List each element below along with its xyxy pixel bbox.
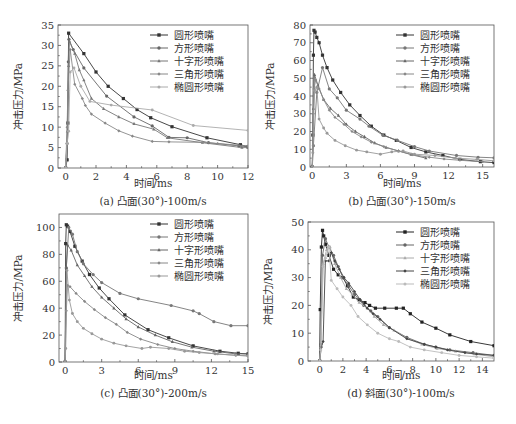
y-tick-label: 100 [36, 222, 55, 233]
legend-label: 方形喷嘴 [420, 42, 460, 54]
y-tick-label: 40 [42, 303, 55, 314]
y-axis-label: 冲击压力/MPa [262, 258, 274, 325]
x-tick-label: 12 [242, 171, 255, 182]
legend-label: 十字形喷嘴 [420, 55, 470, 67]
y-axis-label: 冲击压力/MPa [264, 62, 276, 129]
y-tick-label: 50 [291, 217, 304, 228]
legend-label: 三角形喷嘴 [420, 69, 470, 80]
legend-label: 圆形喷嘴 [420, 227, 460, 238]
x-tick-label: 8 [184, 171, 190, 182]
x-tick-label: 0 [62, 171, 68, 182]
y-tick-label: 10 [291, 328, 304, 339]
y-axis-label: 冲击压力/MPa [12, 254, 24, 321]
legend-label: 三角形喷嘴 [174, 258, 224, 269]
y-tick-label: 40 [291, 244, 304, 255]
plot-frame [310, 25, 494, 167]
y-tick-label: 0 [48, 163, 54, 174]
plot-frame [59, 214, 248, 362]
legend-label: 圆形喷嘴 [174, 30, 214, 41]
series-1 [64, 32, 250, 170]
x-axis-label: 时间/ms [134, 369, 173, 381]
legend-label: 方形喷嘴 [174, 42, 214, 54]
x-tick-label: 0 [309, 170, 315, 181]
x-axis-label: 时间/ms [134, 177, 173, 189]
legend-label: 椭圆形喷嘴 [174, 270, 224, 282]
series-1 [318, 229, 496, 363]
x-tick-label: 12 [442, 170, 455, 181]
x-tick-label: 10 [430, 364, 443, 375]
x-tick-label: 4 [363, 364, 369, 375]
chart-caption: (c) 凸面(30°)-200m/s [100, 387, 207, 399]
x-tick-label: 10 [211, 171, 224, 182]
y-tick-label: 30 [41, 40, 54, 51]
legend: 圆形喷嘴方形喷嘴十字形喷嘴三角形喷嘴椭圆形喷嘴 [396, 30, 470, 93]
x-tick-label: 0 [62, 365, 68, 376]
x-tick-label: 3 [98, 365, 104, 376]
legend-label: 圆形喷嘴 [420, 30, 460, 41]
chart-caption: (a) 凸面(30°)-100m/s [99, 195, 206, 207]
chart-d: 0246810121401020304050时间/ms冲击压力/MPa(d) 斜… [262, 217, 496, 400]
chart-a: 02468101205101520253035时间/ms冲击压力/MPa(a) … [12, 20, 254, 208]
legend-label: 椭圆形喷嘴 [420, 278, 470, 290]
y-tick-label: 60 [42, 276, 55, 287]
y-tick-label: 30 [293, 108, 306, 119]
x-axis-label: 时间/ms [383, 177, 422, 189]
y-tick-label: 0 [49, 357, 55, 368]
figure: 02468101205101520253035时间/ms冲击压力/MPa(a) … [0, 0, 516, 424]
x-axis-label: 时间/ms [382, 369, 421, 381]
chart-b: 0369121501020304050607080时间/ms冲击压力/MPa(b… [264, 20, 496, 208]
x-tick-label: 2 [340, 364, 346, 375]
x-tick-label: 14 [476, 364, 489, 375]
legend-label: 十字形喷嘴 [420, 252, 470, 264]
y-tick-label: 15 [41, 101, 54, 112]
legend: 圆形喷嘴方形喷嘴十字形喷嘴三角形喷嘴椭圆形喷嘴 [150, 219, 224, 282]
series-5 [64, 269, 250, 363]
legend-label: 三角形喷嘴 [174, 69, 224, 80]
y-tick-label: 35 [41, 20, 54, 31]
y-tick-label: 10 [41, 122, 54, 133]
x-tick-label: 15 [476, 170, 489, 181]
y-tick-label: 70 [293, 37, 306, 48]
chart-c: 03691215020406080100时间/ms冲击压力/MPa(c) 凸面(… [12, 214, 254, 399]
x-tick-label: 4 [123, 171, 129, 182]
x-tick-label: 15 [242, 365, 255, 376]
x-tick-label: 0 [316, 364, 322, 375]
x-tick-label: 12 [453, 364, 466, 375]
y-tick-label: 40 [293, 91, 306, 102]
chart-caption: (d) 斜面(30°)-100m/s [347, 387, 455, 399]
legend-label: 圆形喷嘴 [174, 219, 214, 230]
y-tick-label: 80 [42, 249, 55, 260]
chart-caption: (b) 凸面(30°)-150m/s [348, 195, 456, 207]
y-tick-label: 20 [291, 300, 304, 311]
y-tick-label: 20 [42, 330, 55, 341]
legend: 圆形喷嘴方形喷嘴十字形喷嘴三角形喷嘴椭圆形喷嘴 [396, 227, 470, 290]
legend-label: 十字形喷嘴 [174, 55, 224, 67]
y-tick-label: 50 [293, 73, 306, 84]
legend-label: 椭圆形喷嘴 [174, 81, 224, 93]
y-tick-label: 0 [300, 162, 306, 173]
y-tick-label: 30 [291, 272, 304, 283]
y-tick-label: 20 [293, 126, 306, 137]
x-tick-label: 2 [93, 171, 99, 182]
x-tick-label: 12 [205, 365, 218, 376]
legend: 圆形喷嘴方形喷嘴十字形喷嘴三角形喷嘴椭圆形喷嘴 [150, 30, 224, 93]
legend-label: 三角形喷嘴 [420, 266, 470, 277]
legend-label: 椭圆形喷嘴 [420, 81, 470, 93]
y-tick-label: 60 [293, 55, 306, 66]
y-tick-label: 10 [293, 144, 306, 155]
legend-label: 方形喷嘴 [174, 231, 214, 243]
y-tick-label: 25 [41, 60, 54, 71]
y-tick-label: 5 [48, 142, 54, 153]
y-tick-label: 20 [41, 81, 54, 92]
y-tick-label: 80 [293, 20, 306, 31]
x-tick-label: 3 [343, 170, 349, 181]
legend-label: 方形喷嘴 [420, 239, 460, 251]
y-tick-label: 0 [298, 356, 304, 367]
legend-label: 十字形喷嘴 [174, 244, 224, 256]
y-axis-label: 冲击压力/MPa [12, 63, 24, 130]
